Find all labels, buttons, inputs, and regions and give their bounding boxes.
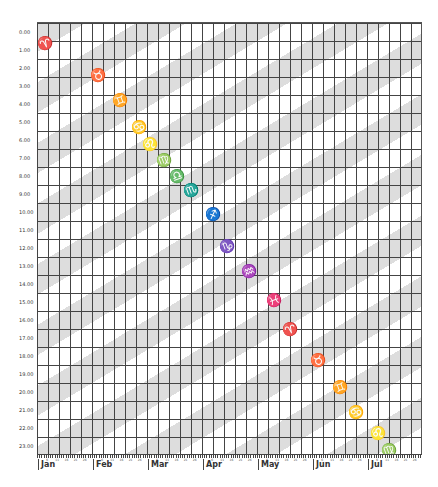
x-minor-tick — [116, 455, 117, 458]
x-minor-tick — [147, 455, 148, 458]
y-tick-label: 19.00 — [19, 371, 35, 377]
x-minor-tick — [162, 455, 163, 458]
x-minor-tick — [134, 455, 135, 458]
grid-hline — [37, 41, 421, 42]
x-minor-tick — [70, 455, 71, 458]
x-minor-tick — [41, 455, 42, 458]
x-minor-tick — [198, 455, 199, 458]
y-tick-label: 20.00 — [19, 389, 35, 395]
y-tick-label: 17.00 — [19, 335, 35, 341]
x-minor-tick — [96, 455, 97, 458]
x-minor-tick — [171, 455, 172, 458]
x-minor-tick — [319, 455, 320, 458]
y-tick-label: 16.00 — [19, 317, 35, 323]
x-minor-tick — [160, 455, 161, 458]
grid-hline — [37, 59, 421, 60]
x-minor-tick — [206, 455, 207, 458]
y-tick-label: 21.00 — [19, 407, 35, 413]
x-minor-tick — [253, 455, 254, 458]
grid-hline — [37, 203, 421, 204]
x-day-label: 26 — [303, 458, 307, 462]
y-tick-label: 1.00 — [19, 47, 35, 53]
y-tick-label: 2.00 — [19, 65, 35, 71]
y-tick-label: 23.00 — [19, 443, 35, 449]
y-tick-label: 8.00 — [19, 173, 35, 179]
x-day-label: 26 — [358, 458, 362, 462]
y-tick-label: 3.00 — [19, 83, 35, 89]
plot-area: ♈♉♊♋♌♍♎♏♐♑♒♓♈♉♊♋♌♍ — [37, 22, 422, 455]
x-minor-tick — [125, 455, 126, 458]
x-minor-tick — [316, 455, 317, 458]
x-day-label: 21 — [184, 458, 188, 462]
x-minor-tick — [354, 455, 355, 458]
x-day-label: 26 — [83, 458, 87, 462]
x-day-label: 21 — [404, 458, 408, 462]
grid-hline — [37, 23, 421, 24]
grid-hline — [37, 419, 421, 420]
x-day-label: 16 — [340, 458, 344, 462]
y-tick-label: 9.00 — [19, 191, 35, 197]
x-minor-tick — [257, 455, 258, 458]
grid-hline — [37, 95, 421, 96]
x-minor-tick — [272, 455, 273, 458]
x-minor-tick — [367, 455, 368, 458]
grid-hline — [37, 383, 421, 384]
grid-hline — [37, 113, 421, 114]
y-tick-label: 5.00 — [19, 119, 35, 125]
x-minor-tick — [92, 455, 93, 458]
x-minor-tick — [336, 455, 337, 458]
grid-hline — [37, 149, 421, 150]
x-minor-tick — [308, 455, 309, 458]
x-minor-tick — [151, 455, 152, 458]
x-minor-tick — [213, 455, 214, 458]
x-minor-tick — [94, 455, 95, 458]
x-minor-tick — [88, 455, 89, 458]
x-minor-tick — [204, 455, 205, 458]
x-day-label: 21 — [294, 458, 298, 462]
x-minor-tick — [48, 455, 49, 458]
x-minor-tick — [154, 455, 155, 458]
month-label-jan: Jan — [38, 459, 55, 470]
grid-hline — [37, 257, 421, 258]
x-minor-tick — [217, 455, 218, 458]
y-tick-label: 7.00 — [19, 155, 35, 161]
x-minor-tick — [261, 455, 262, 458]
grid-hline — [37, 365, 421, 366]
month-label-jul: Jul — [368, 459, 382, 470]
x-minor-tick — [327, 455, 328, 458]
zodiac-time-chart: 0.001.002.003.004.005.006.007.008.009.00… — [0, 0, 438, 487]
x-day-label: 26 — [248, 458, 252, 462]
x-minor-tick — [259, 455, 260, 458]
grid-hline — [37, 401, 421, 402]
x-minor-tick — [79, 455, 80, 458]
x-minor-tick — [200, 455, 201, 458]
grid-hline — [37, 329, 421, 330]
y-tick-label: 22.00 — [19, 425, 35, 431]
x-day-label: 21 — [239, 458, 243, 462]
x-minor-tick — [299, 455, 300, 458]
y-tick-label: 10.00 — [19, 209, 35, 215]
x-day-label: 11 — [385, 458, 389, 462]
x-minor-tick — [374, 455, 375, 458]
y-tick-label: 6.00 — [19, 137, 35, 143]
x-day-label: 26 — [138, 458, 142, 462]
x-minor-tick — [264, 455, 265, 458]
x-day-label: 11 — [55, 458, 59, 462]
month-label-jun: Jun — [313, 459, 330, 470]
x-day-label: 21 — [349, 458, 353, 462]
y-tick-label: 14.00 — [19, 281, 35, 287]
x-minor-tick — [202, 455, 203, 458]
x-minor-tick — [314, 455, 315, 458]
x-minor-tick — [323, 455, 324, 458]
x-minor-tick — [391, 455, 392, 458]
y-tick-label: 18.00 — [19, 353, 35, 359]
month-label-feb: Feb — [93, 459, 112, 470]
y-tick-label: 0.00 — [19, 29, 35, 35]
x-minor-tick — [255, 455, 256, 458]
x-day-label: 26 — [413, 458, 417, 462]
month-label-mar: Mar — [148, 459, 168, 470]
y-tick-label: 11.00 — [19, 227, 35, 233]
x-minor-tick — [39, 455, 40, 458]
grid-hline — [37, 293, 421, 294]
x-minor-tick — [90, 455, 91, 458]
